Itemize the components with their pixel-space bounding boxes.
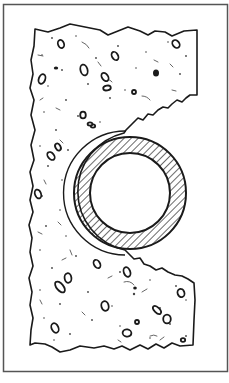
pipe-in-concrete-diagram [0,0,229,383]
pipe-bore [90,153,170,233]
pipe [74,137,186,249]
